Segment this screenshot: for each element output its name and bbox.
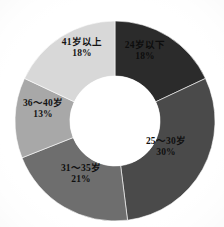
slice-label-value: 18% [42,48,122,59]
slice-label-name: 41岁以上 [42,37,122,48]
slice-label-name: 31～35岁 [44,163,118,174]
slice-label-name: 25～30岁 [130,136,202,147]
slice-label-value: 30% [130,147,202,158]
slice-label-41-and-above: 41岁以上 18% [42,37,122,59]
slice-label-name: 36～40岁 [8,98,78,109]
slice-label-36-40: 36～40岁 13% [8,98,78,120]
slice-label-31-35: 31～35岁 21% [44,163,118,185]
slice-label-value: 21% [44,174,118,185]
slice-label-25-30: 25～30岁 30% [130,136,202,158]
donut-chart: 24岁以下 18% 25～30岁 30% 31～35岁 21% 36～40岁 1… [0,0,224,227]
slice-label-value: 13% [8,109,78,120]
